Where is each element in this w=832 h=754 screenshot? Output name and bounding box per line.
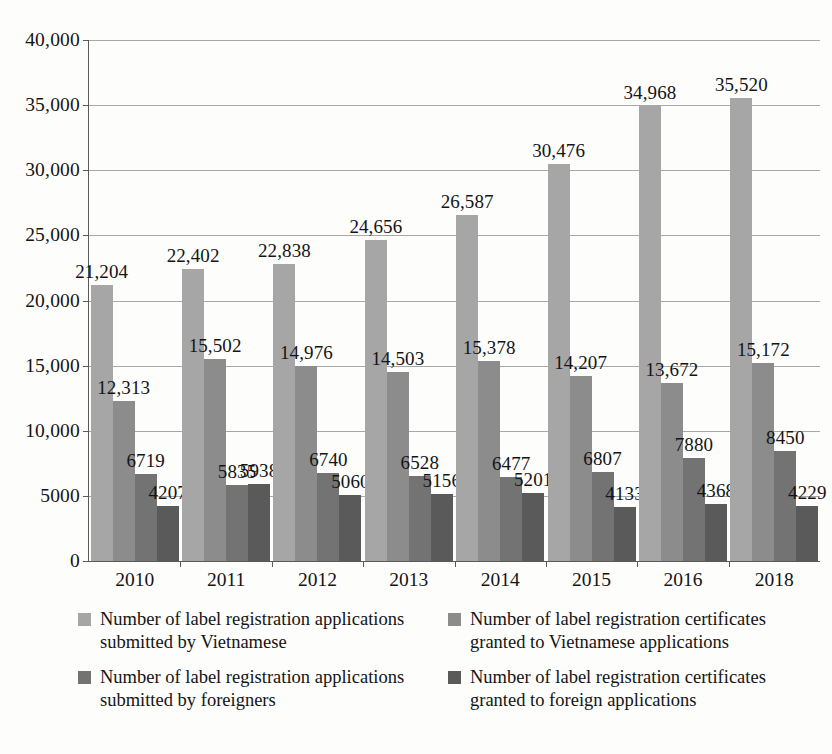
bar[interactable]: 13,672 <box>661 383 683 561</box>
bar[interactable]: 26,587 <box>456 215 478 561</box>
bar-value-label: 6719 <box>126 450 164 472</box>
y-tick-label: 0 <box>70 550 80 572</box>
bar-group: 22,83814,97667405060 <box>273 40 361 561</box>
legend-item[interactable]: Number of label registration application… <box>78 666 434 712</box>
legend-label: Number of label registration certificate… <box>470 666 788 712</box>
bar-value-label: 14,207 <box>554 352 607 374</box>
bar-fill <box>705 504 727 561</box>
legend-swatch-icon <box>78 613 91 626</box>
bar-fill <box>113 401 135 561</box>
legend-swatch-icon <box>78 671 91 684</box>
bar[interactable]: 7880 <box>683 458 705 561</box>
x-tick-mark <box>180 561 181 567</box>
y-tick-mark <box>83 301 89 302</box>
bar-value-label: 14,503 <box>371 348 424 370</box>
bar-fill <box>752 363 774 561</box>
bar-value-label: 30,476 <box>532 140 585 162</box>
x-tick-label: 2014 <box>481 569 520 591</box>
bar[interactable]: 22,838 <box>273 264 295 561</box>
legend-item[interactable]: Number of label registration certificate… <box>448 666 812 712</box>
bar[interactable]: 22,402 <box>182 269 204 561</box>
bar-value-label: 4229 <box>788 482 826 504</box>
bar[interactable]: 4229 <box>796 506 818 561</box>
legend-label: Number of label registration application… <box>100 608 418 654</box>
bar-fill <box>226 485 248 561</box>
y-tick-mark <box>83 235 89 236</box>
legend-swatch-icon <box>448 613 461 626</box>
bar-group: 34,96813,67278804368 <box>639 40 727 561</box>
bar[interactable]: 5156 <box>431 494 453 561</box>
bar-fill <box>796 506 818 561</box>
bar-fill <box>365 240 387 561</box>
bar[interactable]: 21,204 <box>91 285 113 561</box>
bar-group: 22,40215,50258355938 <box>182 40 270 561</box>
bar-fill <box>456 215 478 561</box>
grouped-bar-chart: 0500010,00015,00020,00025,00030,00035,00… <box>0 0 832 754</box>
bar-value-label: 24,656 <box>349 216 402 238</box>
bar[interactable]: 5835 <box>226 485 248 561</box>
bar[interactable]: 34,968 <box>639 106 661 561</box>
bar[interactable]: 4207 <box>157 506 179 561</box>
x-tick-mark <box>729 561 730 567</box>
bar[interactable]: 5938 <box>248 484 270 561</box>
bar-group: 30,47614,20768074133 <box>548 40 636 561</box>
bar-value-label: 34,968 <box>624 82 677 104</box>
legend-label: Number of label registration certificate… <box>470 608 788 654</box>
bar-value-label: 22,402 <box>167 245 220 267</box>
x-tick-mark <box>363 561 364 567</box>
legend-item[interactable]: Number of label registration certificate… <box>448 608 812 654</box>
chart-legend: Number of label registration application… <box>78 608 818 712</box>
bar-value-label: 26,587 <box>441 191 494 213</box>
x-tick-label: 2011 <box>207 569 245 591</box>
x-tick-mark <box>272 561 273 567</box>
legend-item[interactable]: Number of label registration application… <box>78 608 434 654</box>
bar[interactable]: 4133 <box>614 507 636 561</box>
bar[interactable]: 35,520 <box>730 98 752 561</box>
bar-fill <box>431 494 453 561</box>
bar-group: 35,52015,17284504229 <box>730 40 818 561</box>
bar-fill <box>273 264 295 561</box>
y-tick-label: 30,000 <box>25 159 80 181</box>
bar[interactable]: 4368 <box>705 504 727 561</box>
bar-fill <box>614 507 636 561</box>
bar-value-label: 15,502 <box>189 335 242 357</box>
bar-fill <box>91 285 113 561</box>
x-tick-mark <box>637 561 638 567</box>
bar[interactable]: 5201 <box>522 493 544 561</box>
bar-value-label: 15,172 <box>737 339 790 361</box>
y-tick-mark <box>83 431 89 432</box>
bar[interactable]: 24,656 <box>365 240 387 561</box>
bar[interactable]: 15,172 <box>752 363 774 561</box>
bar-value-label: 12,313 <box>97 377 150 399</box>
x-tick-label: 2015 <box>572 569 611 591</box>
bar[interactable]: 5060 <box>339 495 361 561</box>
bar[interactable]: 12,313 <box>113 401 135 561</box>
bar-group: 26,58715,37864775201 <box>456 40 544 561</box>
bar-group: 24,65614,50365285156 <box>365 40 453 561</box>
bar[interactable]: 8450 <box>774 451 796 561</box>
bar-value-label: 8450 <box>766 427 804 449</box>
plot-area: 0500010,00015,00020,00025,00030,00035,00… <box>88 40 820 562</box>
y-tick-mark <box>83 561 89 562</box>
bar-group: 21,20412,31367194207 <box>91 40 179 561</box>
bar-value-label: 35,520 <box>715 74 768 96</box>
y-tick-label: 10,000 <box>25 420 80 442</box>
legend-swatch-icon <box>448 671 461 684</box>
x-tick-label: 2018 <box>755 569 794 591</box>
bar-value-label: 14,976 <box>280 342 333 364</box>
bar-fill <box>248 484 270 561</box>
bar-value-label: 6740 <box>309 449 347 471</box>
y-tick-label: 35,000 <box>25 94 80 116</box>
bar-value-label: 13,672 <box>646 359 699 381</box>
bar-fill <box>182 269 204 561</box>
x-tick-label: 2016 <box>663 569 702 591</box>
bar-fill <box>683 458 705 561</box>
x-tick-mark <box>455 561 456 567</box>
y-tick-label: 20,000 <box>25 290 80 312</box>
y-tick-mark <box>83 170 89 171</box>
x-tick-label: 2013 <box>389 569 428 591</box>
bar-value-label: 7880 <box>675 434 713 456</box>
bar-fill <box>639 106 661 561</box>
y-tick-label: 40,000 <box>25 29 80 51</box>
bar-fill <box>339 495 361 561</box>
